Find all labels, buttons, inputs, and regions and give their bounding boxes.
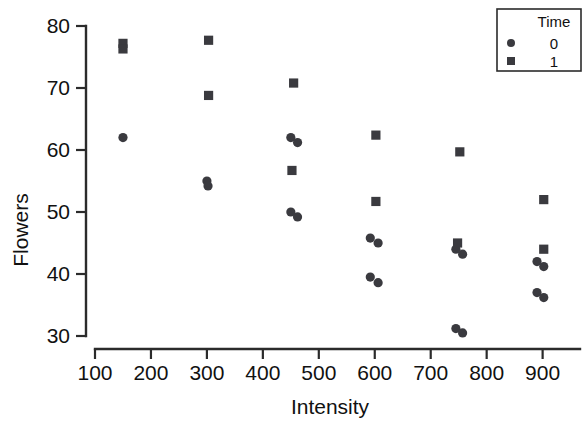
data-point-square [204,36,213,45]
data-point-circle [203,181,212,190]
data-point-circle [366,273,375,282]
data-point-circle [539,293,548,302]
data-point-circle [293,212,302,221]
y-axis-tick-label: 70 [47,76,70,99]
legend-entry-label: 0 [550,35,558,52]
y-axis-tick-label: 30 [47,324,70,347]
chart-legend: Time01 [497,9,581,71]
data-point-circle [118,133,127,142]
data-point-circle [458,328,467,337]
data-point-square [453,238,462,247]
y-axis-tick-label: 80 [47,14,70,37]
data-point-square [204,91,213,100]
data-point-square [539,195,548,204]
legend-marker [507,57,515,65]
x-axis-tick-label: 600 [357,361,392,384]
x-axis-tick-label: 100 [77,361,112,384]
data-point-square [455,147,464,156]
data-point-square [118,44,127,53]
x-axis: 100200300400500600700800900 [77,349,580,384]
data-point-square [287,166,296,175]
y-axis-title: Flowers [9,193,32,267]
x-axis-tick-label: 700 [413,361,448,384]
y-axis-tick-label: 50 [47,200,70,223]
x-axis-tick-label: 200 [133,361,168,384]
data-point-square [371,197,380,206]
data-point-circle [374,238,383,247]
data-point-circle [293,138,302,147]
data-point-square [539,245,548,254]
x-axis-tick-label: 400 [245,361,280,384]
data-point-circle [539,262,548,271]
data-points-layer [118,36,548,338]
x-axis-title: Intensity [291,395,370,418]
data-point-circle [374,278,383,287]
y-axis: 304050607080 [47,14,86,347]
legend-marker [507,39,515,47]
data-point-square [289,78,298,87]
data-point-circle [458,250,467,259]
x-axis-tick-label: 300 [189,361,224,384]
x-axis-tick-label: 900 [525,361,560,384]
chart-canvas: 304050607080 100200300400500600700800900… [0,0,588,426]
y-axis-tick-label: 40 [47,262,70,285]
series-1 [118,36,548,254]
scatter-plot-figure: 304050607080 100200300400500600700800900… [0,0,588,426]
data-point-square [371,131,380,140]
legend-title: Time [538,13,571,30]
series-0 [118,133,548,338]
data-point-circle [366,233,375,242]
x-axis-tick-label: 800 [469,361,504,384]
legend-entry-label: 1 [550,53,558,70]
y-axis-tick-label: 60 [47,138,70,161]
x-axis-tick-label: 500 [301,361,336,384]
